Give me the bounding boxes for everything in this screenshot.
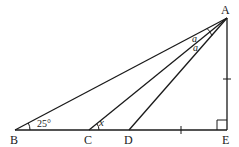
point-label-c: C — [84, 133, 92, 147]
geometry-diagram: A B C D E 25° x a a — [0, 0, 239, 147]
angle-arc-a-upper — [207, 29, 210, 33]
point-label-b: B — [10, 133, 18, 147]
point-label-a: A — [221, 3, 230, 17]
angle-label-b: 25° — [37, 118, 51, 129]
point-label-d: D — [124, 133, 133, 147]
angle-label-x: x — [98, 116, 104, 128]
angle-arc-b — [28, 123, 30, 130]
right-angle-marker — [217, 120, 227, 130]
point-label-e: E — [222, 133, 229, 147]
segment-ac — [89, 18, 227, 130]
angle-label-a-lower: a — [193, 42, 198, 53]
segment-ad — [129, 18, 227, 130]
